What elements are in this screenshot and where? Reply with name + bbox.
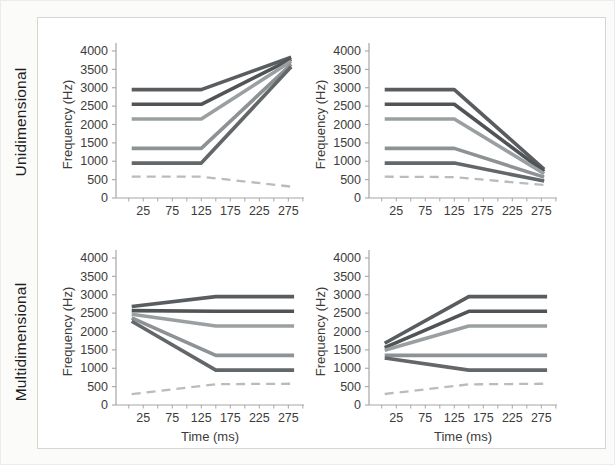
- svg-text:1500: 1500: [333, 136, 361, 150]
- svg-text:0: 0: [101, 191, 108, 205]
- svg-text:175: 175: [473, 411, 494, 425]
- svg-text:Time (ms): Time (ms): [434, 429, 492, 444]
- svg-text:3500: 3500: [333, 270, 361, 284]
- svg-text:2000: 2000: [80, 118, 108, 132]
- svg-text:125: 125: [444, 204, 465, 218]
- svg-text:225: 225: [249, 204, 270, 218]
- svg-text:1500: 1500: [333, 343, 361, 357]
- chart-multidimensional-left: 0500100015002000250030003500400025751251…: [38, 233, 322, 448]
- svg-text:125: 125: [191, 204, 212, 218]
- svg-text:500: 500: [340, 380, 361, 394]
- svg-text:1500: 1500: [80, 136, 108, 150]
- svg-text:0: 0: [354, 398, 361, 412]
- svg-text:Frequency (Hz): Frequency (Hz): [313, 80, 328, 170]
- svg-text:500: 500: [340, 173, 361, 187]
- svg-text:225: 225: [249, 411, 270, 425]
- svg-text:225: 225: [502, 411, 523, 425]
- svg-text:25: 25: [136, 204, 150, 218]
- svg-text:175: 175: [220, 411, 241, 425]
- svg-text:1000: 1000: [333, 154, 361, 168]
- svg-text:2500: 2500: [333, 306, 361, 320]
- svg-text:25: 25: [136, 411, 150, 425]
- chart-unidimensional-right: 0500100015002000250030003500400025751251…: [321, 18, 605, 233]
- svg-text:3000: 3000: [80, 81, 108, 95]
- svg-text:75: 75: [165, 204, 179, 218]
- svg-text:4000: 4000: [333, 251, 361, 265]
- figure-page: { "rows": [ {"label": "Unidimensional"},…: [0, 0, 615, 465]
- svg-text:75: 75: [165, 411, 179, 425]
- svg-text:3000: 3000: [80, 288, 108, 302]
- svg-text:2000: 2000: [333, 118, 361, 132]
- svg-text:25: 25: [389, 204, 403, 218]
- svg-text:Frequency (Hz): Frequency (Hz): [60, 80, 75, 170]
- svg-text:4000: 4000: [80, 251, 108, 265]
- svg-text:125: 125: [191, 411, 212, 425]
- svg-text:275: 275: [278, 411, 299, 425]
- chart-multidimensional-right: 0500100015002000250030003500400025751251…: [321, 233, 605, 448]
- svg-text:225: 225: [502, 204, 523, 218]
- svg-text:Frequency (Hz): Frequency (Hz): [313, 287, 328, 377]
- svg-text:2500: 2500: [80, 99, 108, 113]
- svg-text:1000: 1000: [80, 154, 108, 168]
- svg-text:125: 125: [444, 411, 465, 425]
- svg-text:75: 75: [418, 411, 432, 425]
- charts-panel: 0500100015002000250030003500400025751251…: [37, 17, 606, 449]
- svg-text:3500: 3500: [80, 270, 108, 284]
- svg-text:500: 500: [87, 380, 108, 394]
- svg-text:3000: 3000: [333, 81, 361, 95]
- row-label-unidimensional: Unidimensional: [12, 68, 30, 177]
- svg-text:4000: 4000: [333, 44, 361, 58]
- svg-text:3500: 3500: [333, 63, 361, 77]
- chart-unidimensional-left: 0500100015002000250030003500400025751251…: [38, 18, 322, 233]
- svg-text:25: 25: [389, 411, 403, 425]
- svg-text:2500: 2500: [333, 99, 361, 113]
- svg-text:3500: 3500: [80, 63, 108, 77]
- row-label-multidimensional: Multidimensional: [12, 283, 30, 402]
- svg-text:2000: 2000: [333, 325, 361, 339]
- svg-text:3000: 3000: [333, 288, 361, 302]
- svg-text:175: 175: [220, 204, 241, 218]
- svg-text:75: 75: [418, 204, 432, 218]
- svg-text:Frequency (Hz): Frequency (Hz): [60, 287, 75, 377]
- svg-text:0: 0: [354, 191, 361, 205]
- svg-text:275: 275: [531, 204, 552, 218]
- svg-text:1000: 1000: [80, 361, 108, 375]
- svg-text:4000: 4000: [80, 44, 108, 58]
- svg-text:2500: 2500: [80, 306, 108, 320]
- svg-text:275: 275: [278, 204, 299, 218]
- svg-text:0: 0: [101, 398, 108, 412]
- svg-text:500: 500: [87, 173, 108, 187]
- svg-text:1000: 1000: [333, 361, 361, 375]
- svg-text:175: 175: [473, 204, 494, 218]
- svg-text:2000: 2000: [80, 325, 108, 339]
- svg-text:Time (ms): Time (ms): [181, 429, 239, 444]
- svg-text:275: 275: [531, 411, 552, 425]
- svg-text:1500: 1500: [80, 343, 108, 357]
